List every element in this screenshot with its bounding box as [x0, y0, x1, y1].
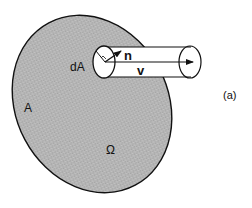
label-omega: Ω	[106, 143, 115, 157]
label-A: A	[24, 101, 32, 115]
label-n: n	[124, 48, 132, 63]
label-v: v	[137, 63, 145, 78]
flux-diagram: n v dA A Ω (a)	[0, 0, 252, 208]
label-dA: dA	[70, 60, 85, 74]
label-panel-a: (a)	[223, 89, 236, 101]
